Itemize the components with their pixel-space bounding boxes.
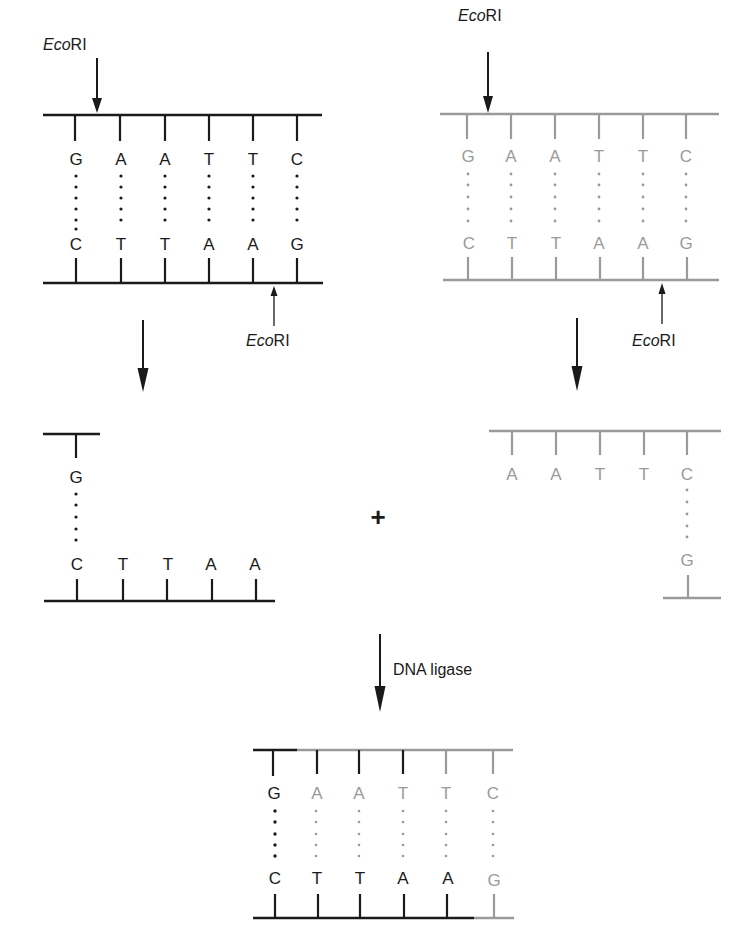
left-duplex: EcoRI G A A T [43, 36, 323, 349]
digest-arrow-left [138, 320, 149, 392]
bottom-bases: C T T A A G [463, 234, 693, 253]
base: A [311, 784, 323, 803]
hydrogen-bonds [74, 174, 298, 230]
base: T [595, 465, 605, 484]
hydrogen-bonds [686, 489, 689, 539]
base: T [551, 234, 561, 253]
bottom-ticks [77, 579, 256, 601]
base: T [398, 784, 408, 803]
bottom-bases: C T T A A G [70, 235, 304, 254]
base: C [681, 465, 693, 484]
base: A [550, 465, 562, 484]
base: T [594, 147, 604, 166]
base: C [71, 555, 83, 574]
base: G [680, 551, 693, 570]
bottom-bases: C T T A A G [269, 869, 501, 890]
top-bases: G A A T T C [267, 784, 499, 803]
top-bases: A A T T C [506, 465, 693, 484]
top-ticks [273, 750, 493, 776]
base: A [353, 784, 365, 803]
base: A [593, 234, 605, 253]
base: T [204, 150, 214, 169]
top-ticks [512, 431, 687, 455]
ligase-label: DNA ligase [393, 661, 472, 678]
top-ticks [467, 114, 686, 139]
cut-arrow-bottom-right [659, 283, 666, 324]
base: G [69, 468, 82, 487]
base: A [505, 147, 517, 166]
bottom-bases: C T T A A [71, 555, 261, 574]
base: G [461, 147, 474, 166]
bottom-ticks [76, 258, 297, 283]
top-ticks [75, 115, 297, 141]
hydrogen-bonds [74, 492, 77, 541]
base: T [248, 150, 258, 169]
base: T [639, 465, 649, 484]
base: A [247, 235, 259, 254]
ecori-ligation-diagram: EcoRI G A A T [0, 0, 740, 939]
cut-arrow-top-right [483, 52, 493, 113]
base: A [506, 465, 518, 484]
hydrogen-bonds [273, 809, 494, 857]
base: A [159, 150, 171, 169]
left-fragment: G C T T A A [43, 434, 275, 601]
base: A [549, 147, 561, 166]
enzyme-label-bottom-right: EcoRI [632, 332, 676, 349]
digest-arrow-right [572, 318, 583, 391]
base: A [249, 555, 261, 574]
base: T [441, 784, 451, 803]
bottom-ticks [468, 257, 687, 280]
enzyme-label-top-right: EcoRI [458, 7, 502, 24]
base: C [269, 869, 281, 888]
base: G [487, 871, 500, 890]
bottom-ticks [275, 894, 494, 918]
base: G [267, 784, 280, 803]
base: T [355, 869, 365, 888]
base: T [507, 234, 517, 253]
base: C [487, 784, 499, 803]
right-fragment: A A T T C G [489, 431, 721, 598]
right-duplex: EcoRI [440, 7, 719, 349]
top-bases: G A A T T C [461, 147, 692, 166]
cut-arrow-top-left [92, 58, 102, 113]
base: T [118, 555, 128, 574]
ligated-product: G A A T T C C T T A A G [253, 750, 514, 918]
enzyme-label-top-left: EcoRI [43, 36, 87, 53]
base: G [679, 234, 692, 253]
base: C [291, 150, 303, 169]
base: A [397, 869, 409, 888]
base: C [680, 147, 692, 166]
base: T [160, 235, 170, 254]
base: G [290, 235, 303, 254]
plus-sign: + [370, 502, 385, 532]
base: T [638, 147, 648, 166]
enzyme-label-bottom-left: EcoRI [246, 332, 290, 349]
base: A [442, 869, 454, 888]
base: A [205, 555, 217, 574]
base: T [312, 869, 322, 888]
base: G [69, 150, 82, 169]
base: C [463, 234, 475, 253]
base: C [70, 235, 82, 254]
base: T [116, 235, 126, 254]
cut-arrow-bottom-left [271, 286, 278, 326]
top-bases: G A A T T C [69, 150, 303, 169]
hydrogen-bonds [467, 173, 688, 223]
base: T [163, 555, 173, 574]
ligase-arrow [375, 634, 386, 712]
base: A [637, 234, 649, 253]
base: A [203, 235, 215, 254]
base: A [115, 150, 127, 169]
